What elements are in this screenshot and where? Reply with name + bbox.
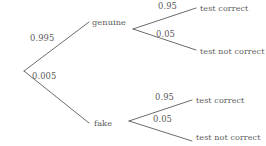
node-label-fake: fake <box>94 118 112 128</box>
edge-label-fake-probability: 0.005 <box>32 71 56 81</box>
leaf-label-fake-test-correct: test correct <box>196 96 244 106</box>
edge-label-genuine-probability: 0.995 <box>30 33 54 43</box>
edge-fake-to-test-not-correct <box>129 121 192 141</box>
edge-label-genuine-test-not-correct-probability: 0.05 <box>156 29 175 39</box>
node-label-genuine: genuine <box>92 17 126 27</box>
edge-label-fake-test-not-correct-probability: 0.05 <box>153 114 172 124</box>
edge-root-to-genuine <box>24 22 89 71</box>
leaf-label-genuine-test-correct: test correct <box>200 4 248 14</box>
leaf-label-genuine-test-not-correct: test not correct <box>200 47 265 57</box>
leaf-label-fake-test-not-correct: test not correct <box>196 133 261 143</box>
edge-genuine-to-test-correct <box>133 8 196 29</box>
edge-label-genuine-test-correct-probability: 0.95 <box>158 1 177 11</box>
edge-label-fake-test-correct-probability: 0.95 <box>155 92 174 102</box>
probability-tree-diagram: 0.995 0.005 genuine fake 0.95 0.05 test … <box>0 0 266 146</box>
